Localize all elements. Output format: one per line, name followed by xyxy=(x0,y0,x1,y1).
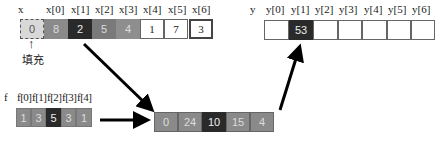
flow-arrows-icon xyxy=(0,0,435,141)
x-to-product-arrow xyxy=(84,44,148,106)
product-to-y-arrow xyxy=(280,52,298,110)
